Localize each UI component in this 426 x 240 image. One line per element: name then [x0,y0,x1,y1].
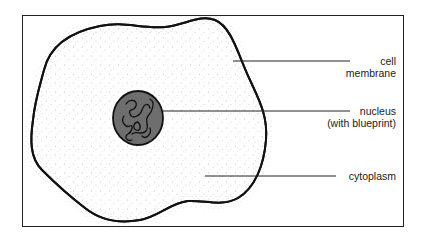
label-nucleus: nucleus (with blueprint) [327,105,396,129]
label-nucleus-title: nucleus [327,105,396,117]
label-nucleus-subtitle: (with blueprint) [327,117,396,129]
label-membrane: membrane [346,67,396,79]
label-cytoplasm: cytoplasm [349,170,396,182]
label-cytoplasm-title: cytoplasm [349,170,396,182]
nucleus [113,91,163,145]
label-cell-membrane: cell membrane [346,55,396,79]
label-cell: cell [346,55,396,67]
